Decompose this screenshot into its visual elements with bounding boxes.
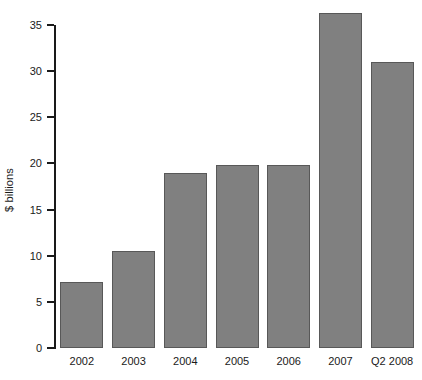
y-axis-tick-label: 30: [12, 65, 42, 77]
bar: [60, 282, 103, 348]
bar: [267, 165, 310, 348]
y-axis-tick-label: 35: [12, 19, 42, 31]
y-axis-tick: [47, 301, 54, 303]
x-axis-tick-label: Q2 2008: [371, 355, 413, 367]
y-axis-tick-label: 25: [12, 111, 42, 123]
x-axis-tick-label: 2002: [70, 355, 94, 367]
y-axis-tick: [47, 347, 54, 349]
y-axis-tick: [47, 162, 54, 164]
y-axis-tick: [47, 255, 54, 257]
plot-area: [56, 25, 418, 348]
y-axis-tick: [47, 24, 54, 26]
y-axis-tick-label: 15: [12, 204, 42, 216]
bar: [371, 62, 414, 348]
bar: [216, 165, 259, 348]
bar: [112, 251, 155, 348]
y-axis-tick-label: 10: [12, 250, 42, 262]
y-axis-tick: [47, 116, 54, 118]
x-axis-tick-label: 2003: [121, 355, 145, 367]
bar: [164, 173, 207, 348]
y-axis-tick: [47, 70, 54, 72]
x-axis-tick-label: 2007: [328, 355, 352, 367]
bar: [319, 13, 362, 348]
x-axis-tick-label: 2004: [173, 355, 197, 367]
y-axis-tick-label: 0: [12, 342, 42, 354]
y-axis-tick-label: 5: [12, 296, 42, 308]
y-axis-tick-label: 20: [12, 157, 42, 169]
bar-chart: $ billions 05101520253035 20022003200420…: [0, 0, 422, 380]
y-axis-tick: [47, 209, 54, 211]
x-axis-tick-label: 2006: [276, 355, 300, 367]
y-axis-title: $ billions: [0, 0, 18, 380]
x-axis-tick-label: 2005: [225, 355, 249, 367]
